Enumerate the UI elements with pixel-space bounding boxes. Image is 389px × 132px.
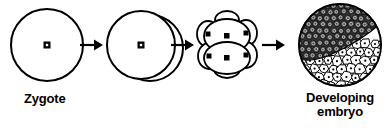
arrow-2-icon bbox=[171, 38, 195, 52]
embryo-development-diagram: Zygote Developing embryo bbox=[0, 0, 389, 132]
label-zygote: Zygote bbox=[24, 92, 65, 106]
label-developing-embryo-line1: Developing bbox=[306, 90, 374, 105]
arrow-1-icon bbox=[80, 38, 104, 52]
label-developing-embryo-line2: embryo bbox=[317, 104, 363, 119]
stage-developing-embryo bbox=[296, 3, 384, 87]
label-developing-embryo: Developing embryo bbox=[294, 91, 386, 119]
nucleus-icon bbox=[138, 42, 145, 49]
stage-zygote bbox=[8, 6, 86, 84]
nucleus-icon bbox=[44, 42, 51, 49]
arrow-3-icon bbox=[262, 38, 286, 52]
stage-morula bbox=[196, 8, 260, 80]
